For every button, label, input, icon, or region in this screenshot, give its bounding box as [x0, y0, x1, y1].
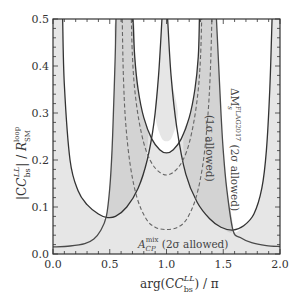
annotation-1sigma: (1σ allowed): [204, 115, 216, 182]
chart-figure: 0.00.51.01.52.00.00.10.20.30.40.5 ACPmix…: [0, 0, 299, 305]
y-axis-title: |CCbsLL| / RSMloop: [12, 126, 32, 200]
x-axis-title: arg(CCbsLL) / π: [140, 274, 219, 294]
x-tick-label: 0.5: [101, 258, 119, 271]
y-tick-label: 0.1: [32, 201, 50, 214]
y-tick-label: 0.2: [32, 154, 50, 167]
y-tick-label: 0.3: [32, 107, 50, 120]
y-tick-label: 0.0: [32, 248, 50, 261]
x-tick-label: 2.0: [271, 258, 289, 271]
x-tick-label: 1.0: [158, 258, 176, 271]
y-tick-label: 0.4: [32, 60, 50, 73]
y-tick-label: 0.5: [32, 13, 50, 26]
x-tick-label: 1.5: [215, 258, 233, 271]
plot-area: [53, 14, 280, 254]
